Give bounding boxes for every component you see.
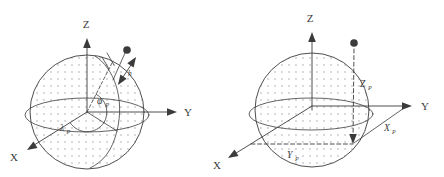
right-point-marker <box>350 39 358 47</box>
left-z-axis-label: Z <box>83 18 90 30</box>
geodetic-coordinates-figure: Z Y X φ P λ P h Z Y X Z P X P Y P <box>0 0 444 177</box>
right-x-axis-label: X <box>213 159 221 171</box>
latitude-angle-subscript: P <box>105 102 110 108</box>
z-coordinate-subscript: P <box>367 85 372 91</box>
x-coordinate-subscript: P <box>391 129 396 135</box>
x-coordinate-label: X <box>383 123 391 133</box>
right-z-axis-label: Z <box>307 12 314 24</box>
left-y-axis-label: Y <box>184 106 192 118</box>
height-label: h <box>128 69 132 78</box>
latitude-angle-label: φ <box>97 96 102 106</box>
left-x-axis-label: X <box>10 151 18 163</box>
left-point-marker <box>123 46 131 54</box>
z-coordinate-label: Z <box>360 79 366 89</box>
figure-canvas: Z Y X φ P λ P h Z Y X Z P X P Y P <box>0 0 444 177</box>
longitude-angle-subscript: P <box>66 129 71 135</box>
right-y-axis-label: Y <box>421 100 429 112</box>
y-coordinate-subscript: P <box>294 156 299 162</box>
longitude-angle-label: λ <box>59 123 64 133</box>
